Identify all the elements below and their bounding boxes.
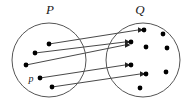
q-element-7-dot <box>144 72 149 77</box>
diagram-canvas: P Q p <box>0 0 191 103</box>
q-element-6-dot <box>129 63 134 68</box>
q-element-5-dot <box>165 46 170 51</box>
set-q-circle <box>106 23 180 97</box>
q-element-1-dot <box>142 28 147 33</box>
q-element-9-dot <box>138 86 143 91</box>
set-p-label: P <box>45 2 54 17</box>
mapping-arrow-5 <box>52 74 140 87</box>
p-element-3-dot <box>24 63 29 68</box>
set-q-elements <box>129 28 170 91</box>
set-q-label: Q <box>135 2 145 17</box>
q-element-2-dot <box>129 40 134 45</box>
p-element-4-dot <box>38 76 43 81</box>
q-element-8-dot <box>164 70 169 75</box>
q-element-3-dot <box>161 32 166 37</box>
p-element-1-dot <box>47 42 52 47</box>
q-element-4-dot <box>144 45 149 50</box>
set-mapping-diagram: P Q p <box>0 0 191 103</box>
p-element-4-label: p <box>28 73 34 84</box>
p-element-2-dot <box>33 51 38 56</box>
p-element-5-dot <box>50 85 55 90</box>
